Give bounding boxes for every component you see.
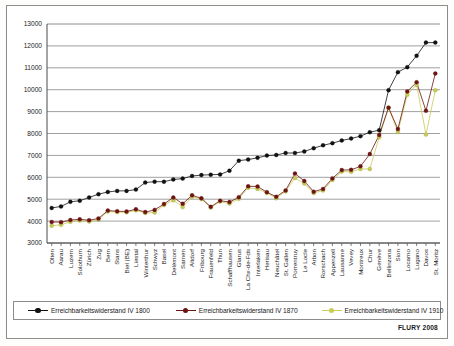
legend-marker-1800	[28, 306, 48, 315]
x-axis-category-label: Fribourg	[198, 248, 205, 272]
data-point	[256, 184, 260, 188]
data-point	[340, 139, 344, 143]
data-point	[387, 106, 391, 110]
data-point	[209, 173, 213, 177]
data-point	[143, 181, 147, 185]
data-point	[433, 41, 437, 45]
data-point	[96, 216, 100, 220]
data-point	[312, 146, 316, 150]
data-point	[171, 177, 175, 181]
chart-figure: 3000400050006000700080009000100001100012…	[0, 0, 454, 346]
data-point	[162, 202, 166, 206]
x-axis-category-label: Winterthur	[142, 249, 149, 278]
line-chart: 3000400050006000700080009000100001100012…	[0, 0, 454, 346]
x-axis-category-label: Vevey	[347, 248, 354, 266]
legend-entry-1870: Erreichbarkeitswiderstand IV 1870	[176, 306, 298, 315]
data-point	[387, 88, 391, 92]
data-point	[78, 217, 82, 221]
legend-label-1910: Erreichbarkeitswiderstand IV 1910	[345, 307, 444, 314]
legend-dot-1800	[35, 308, 41, 314]
data-point	[134, 207, 138, 211]
data-point	[284, 151, 288, 155]
x-axis-category-label: Neuchâtel	[273, 249, 280, 277]
data-point	[68, 218, 72, 222]
x-axis-category-label: Bellinzona	[385, 248, 392, 277]
data-point	[312, 190, 316, 194]
data-point	[237, 159, 241, 163]
data-point	[349, 137, 353, 141]
data-point	[68, 200, 72, 204]
data-point	[218, 172, 222, 176]
data-point	[377, 133, 381, 137]
data-point	[368, 167, 372, 171]
data-point	[415, 54, 419, 58]
data-point	[358, 164, 362, 168]
data-point	[321, 143, 325, 147]
x-axis-category-label: Porrentruy	[291, 248, 298, 278]
data-point	[87, 195, 91, 199]
x-axis-category-label: Appenzell	[329, 249, 336, 276]
data-point	[209, 205, 213, 209]
data-point	[396, 127, 400, 131]
y-axis-tick-label: 4000	[27, 218, 42, 225]
x-axis-category-label: Bern	[104, 248, 111, 262]
data-point	[293, 176, 297, 180]
y-axis-tick-label: 10000	[24, 86, 43, 93]
data-point	[143, 210, 147, 214]
data-point	[293, 172, 297, 176]
data-point	[106, 190, 110, 194]
x-axis-category-label: Sion	[394, 248, 401, 261]
x-axis-category-label: Frauenfeld	[207, 248, 214, 278]
legend-entry-1910: Erreichbarkeitswiderstand IV 1910	[322, 306, 444, 315]
data-point	[405, 89, 409, 93]
data-point	[302, 149, 306, 153]
data-point	[349, 168, 353, 172]
data-point	[424, 41, 428, 45]
x-axis-category-label: Schaffhausen	[226, 248, 233, 286]
data-point	[377, 128, 381, 132]
x-axis-category-label: Le Locle	[301, 248, 308, 272]
data-point	[153, 180, 157, 184]
data-point	[284, 188, 288, 192]
y-axis-tick-label: 9000	[27, 108, 42, 115]
x-axis-category-label: Solothurn	[76, 248, 83, 275]
x-axis-category-label: Aarau	[57, 248, 64, 265]
data-point	[153, 208, 157, 212]
data-point	[274, 153, 278, 157]
legend-label-1870: Erreichbarkeitswiderstand IV 1870	[199, 307, 298, 314]
data-point	[265, 190, 269, 194]
data-point	[115, 209, 119, 213]
data-point	[302, 179, 306, 183]
data-point	[246, 158, 250, 162]
x-axis-category-label: Davos	[422, 249, 429, 267]
data-point	[256, 156, 260, 160]
y-axis-tick-label: 6000	[27, 174, 42, 181]
x-axis-category-label: Montreux	[357, 248, 364, 275]
data-point	[433, 71, 437, 75]
x-axis-category-label: Glarus	[235, 249, 242, 267]
data-point	[59, 204, 63, 208]
data-point	[340, 168, 344, 172]
x-axis-category-label: Lausanne	[338, 248, 345, 276]
legend-label-1800: Erreichbarkeitswiderstand IV 1800	[51, 307, 150, 314]
data-point	[237, 195, 241, 199]
data-point	[134, 188, 138, 192]
data-point	[50, 224, 54, 228]
data-point	[424, 133, 428, 137]
plot-area: 3000400050006000700080009000100001100012…	[0, 0, 454, 346]
data-point	[190, 174, 194, 178]
data-point	[162, 180, 166, 184]
y-axis-tick-label: 13000	[24, 20, 43, 27]
data-point	[190, 193, 194, 197]
x-axis-category-label: Chur	[366, 249, 373, 262]
data-point	[246, 184, 250, 188]
x-axis-category-label: Interlaken	[254, 248, 261, 276]
data-point	[78, 199, 82, 203]
x-axis-category-label: Zürich	[85, 248, 92, 266]
data-point	[50, 206, 54, 210]
x-axis-category-label: Basel	[160, 249, 167, 264]
data-point	[199, 196, 203, 200]
data-point	[115, 189, 119, 193]
data-point	[125, 189, 129, 193]
x-axis-category-label: St. Gallen	[282, 248, 289, 276]
